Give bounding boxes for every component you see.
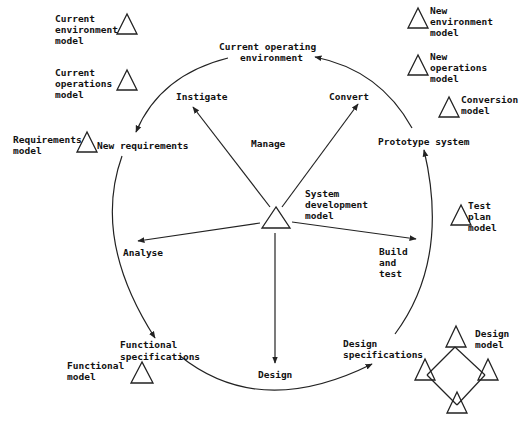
spoke-analyse [138, 223, 260, 241]
arc-design-to-prototype [395, 150, 432, 334]
stage-design-specifications: Design specifications [343, 338, 423, 360]
current-operations-model-label: Current operations model [55, 67, 118, 100]
conversion-model-label: Conversion model [461, 94, 523, 116]
activity-build-and-test: Build and test [379, 246, 413, 279]
system-development-diagram: Current operating environment New requir… [0, 0, 523, 422]
functional-model-label: Functional model [67, 360, 130, 382]
conversion-model-icon [439, 97, 459, 117]
spoke-instigate [193, 107, 270, 207]
functional-model-icon [131, 362, 153, 383]
stage-new-requirements: New requirements [97, 140, 189, 151]
new-environment-model-icon [408, 8, 428, 28]
requirements-model-label: Requirements model [13, 134, 87, 156]
activity-analyse: Analyse [123, 247, 163, 258]
system-development-model-label: System development model [305, 188, 374, 221]
new-operations-model-label: New operations model [430, 51, 493, 84]
activity-instigate: Instigate [176, 91, 228, 102]
current-environment-model-label: Current environment model [55, 13, 124, 46]
activity-manage: Manage [251, 138, 286, 149]
stage-current-operating-environment: Current operating environment [219, 41, 322, 63]
new-environment-model-label: New environment model [430, 5, 499, 38]
system-development-model-icon [262, 207, 290, 228]
spoke-build-and-test [292, 222, 416, 239]
activity-convert: Convert [329, 91, 369, 102]
stage-prototype-system: Prototype system [378, 136, 470, 147]
activity-design: Design [258, 369, 292, 380]
current-operations-model-icon [117, 70, 137, 90]
stage-functional-specifications: Functional specifications [120, 339, 200, 362]
design-model-label: Design model [475, 328, 515, 350]
new-operations-model-icon [408, 55, 428, 75]
test-plan-model-label: Test plan model [468, 200, 497, 233]
